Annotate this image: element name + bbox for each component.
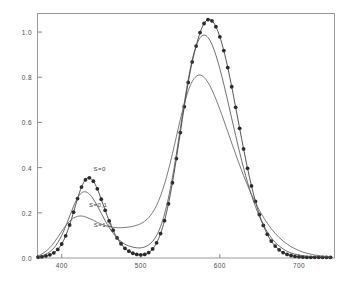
data-point-marker — [246, 166, 250, 170]
x-tick-label: 500 — [135, 262, 147, 269]
data-point-marker — [143, 252, 147, 256]
data-point-marker — [84, 178, 88, 182]
y-tick-label: 0.0 — [2, 255, 32, 262]
data-point-marker — [68, 223, 72, 227]
data-point-marker — [293, 255, 297, 259]
data-point-marker — [139, 253, 143, 257]
data-series-group — [36, 18, 332, 259]
data-point-marker — [289, 254, 293, 258]
data-point-marker — [80, 185, 84, 189]
data-point-marker — [52, 251, 56, 255]
data-point-marker — [250, 184, 254, 188]
data-point-marker — [222, 49, 226, 53]
y-tick-label: 0.8 — [2, 74, 32, 81]
curve-label-s-1-0: S=1,0 — [94, 222, 112, 228]
axis-ticks — [38, 32, 299, 258]
y-tick-label: 1.0 — [2, 29, 32, 36]
data-point-marker — [64, 234, 68, 238]
data-point-marker — [277, 248, 281, 252]
data-point-marker — [198, 31, 202, 35]
data-point-marker — [230, 85, 234, 89]
data-point-marker — [151, 247, 155, 251]
data-point-marker — [127, 249, 131, 253]
data-point-marker — [123, 246, 127, 250]
data-point-marker — [226, 66, 230, 70]
data-point-marker — [234, 105, 238, 109]
data-point-marker — [285, 252, 289, 256]
data-point-marker — [60, 242, 64, 246]
data-point-marker — [242, 147, 246, 151]
data-point-marker — [281, 251, 285, 255]
series-line — [38, 35, 331, 257]
figure-container: 0.00.20.40.60.81.0 400500600700 S=0S=0,1… — [0, 0, 352, 281]
curve-label-s-0-1: S=0,1 — [89, 202, 107, 208]
data-point-marker — [131, 251, 135, 255]
data-point-marker — [273, 244, 277, 248]
data-point-marker — [91, 179, 95, 183]
plot-frame — [38, 14, 335, 259]
data-point-marker — [155, 241, 159, 245]
curve-label-s-0: S=0 — [94, 166, 106, 172]
y-tick-label: 0.4 — [2, 164, 32, 171]
data-point-marker — [72, 210, 76, 214]
data-point-marker — [178, 131, 182, 135]
y-tick-label: 0.2 — [2, 209, 32, 216]
data-point-marker — [214, 25, 218, 29]
series-line — [38, 19, 331, 257]
data-point-marker — [48, 253, 52, 257]
data-point-marker — [87, 176, 91, 180]
data-point-marker — [313, 255, 317, 259]
data-point-marker — [95, 187, 99, 191]
data-point-marker — [99, 197, 103, 201]
data-point-marker — [135, 252, 139, 256]
x-tick-label: 700 — [293, 262, 305, 269]
y-tick-label: 0.6 — [2, 119, 32, 126]
data-point-marker — [36, 255, 40, 259]
data-point-marker — [218, 35, 222, 39]
spectra-plot — [0, 0, 352, 281]
data-point-marker — [147, 251, 151, 255]
data-point-marker — [206, 18, 210, 22]
data-point-marker — [103, 208, 107, 212]
data-point-marker — [159, 232, 163, 236]
data-point-marker — [56, 248, 60, 252]
series-s-0 — [36, 18, 332, 259]
series-s-0-1 — [38, 35, 331, 257]
x-tick-label: 600 — [214, 262, 226, 269]
data-point-marker — [238, 126, 242, 130]
x-tick-label: 400 — [56, 262, 68, 269]
data-point-marker — [202, 22, 206, 26]
data-point-marker — [210, 19, 214, 23]
plot-frame-rect — [38, 14, 335, 259]
